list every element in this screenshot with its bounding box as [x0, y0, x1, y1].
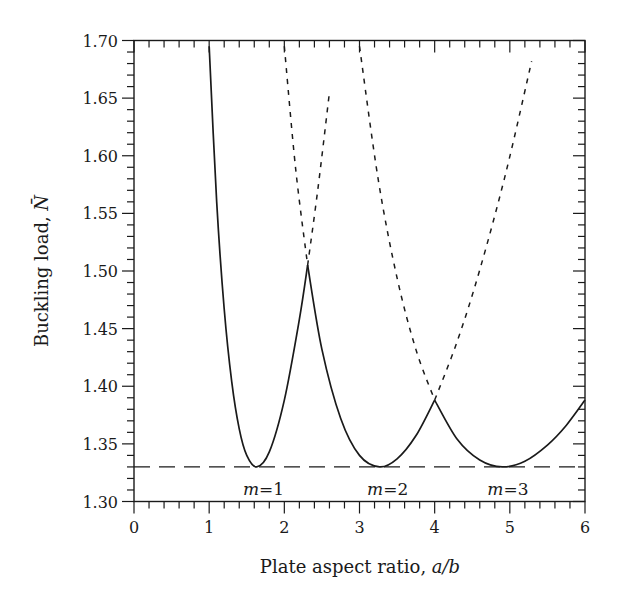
curve-m2-dashed-left [284, 46, 307, 265]
x-tick-label: 3 [354, 518, 364, 537]
x-tick-label: 6 [580, 518, 590, 537]
y-tick-label: 1.50 [82, 262, 118, 281]
x-tick-label: 0 [129, 518, 139, 537]
labels: 01234561.301.351.401.451.501.551.601.651… [82, 32, 590, 537]
curve-m2-solid [308, 265, 435, 467]
curves [134, 46, 585, 467]
label-m2: m=2 [367, 479, 408, 499]
y-tick-label: 1.40 [82, 377, 118, 396]
y-tick-label: 1.70 [82, 32, 118, 51]
plot-frame [134, 41, 585, 502]
y-tick-label: 1.65 [82, 89, 118, 108]
axes [122, 41, 585, 514]
curve-m3-solid [435, 400, 585, 467]
curve-m3-dashed-left [360, 46, 435, 400]
curve-m2-dashed-right [435, 61, 532, 400]
y-axis-label: Buckling load, N̄ [30, 194, 52, 347]
label-m3: m=3 [487, 479, 528, 499]
buckling-chart: 01234561.301.351.401.451.501.551.601.651… [0, 0, 622, 600]
y-tick-label: 1.45 [82, 320, 118, 339]
y-tick-label: 1.55 [82, 204, 118, 223]
y-tick-label: 1.60 [82, 147, 118, 166]
curve-m1-dashed-right [308, 92, 330, 265]
y-tick-label: 1.35 [82, 435, 118, 454]
y-tick-label: 1.30 [82, 493, 118, 512]
x-tick-label: 1 [204, 518, 214, 537]
label-m1: m=1 [243, 479, 284, 499]
x-tick-label: 4 [430, 518, 440, 537]
x-tick-label: 5 [505, 518, 515, 537]
x-tick-label: 2 [279, 518, 289, 537]
curve-m1-solid [209, 46, 307, 467]
x-axis-label: Plate aspect ratio, a/b [260, 556, 460, 577]
